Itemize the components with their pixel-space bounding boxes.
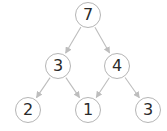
edge-arrow: [66, 27, 81, 53]
node-label: 2: [23, 102, 33, 118]
edge-arrow: [125, 77, 139, 97]
node-label: 3: [53, 58, 63, 74]
node-bottom-center-1: 1: [75, 97, 101, 123]
node-label: 1: [83, 102, 93, 118]
node-label: 3: [143, 102, 153, 118]
edge-arrow: [96, 78, 109, 98]
edge-arrow: [36, 78, 50, 98]
node-bottom-right-3: 3: [135, 97, 161, 123]
edge-arrow: [95, 27, 110, 53]
node-top-7: 7: [75, 2, 101, 28]
node-bottom-left-2: 2: [15, 97, 41, 123]
node-label: 4: [112, 58, 122, 74]
node-mid-right-4: 4: [104, 53, 130, 79]
node-label: 7: [83, 7, 93, 23]
edge-arrow: [66, 78, 80, 98]
node-mid-left-3: 3: [45, 53, 71, 79]
number-tree-diagram: 7 3 4 2 1 3: [0, 0, 167, 131]
